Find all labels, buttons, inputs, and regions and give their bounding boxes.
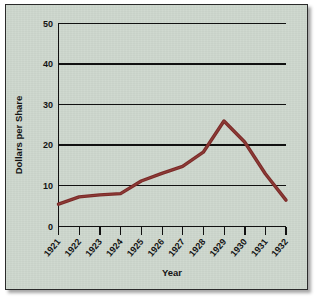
x-tickmarks — [59, 227, 287, 236]
x-tick-label: 1922 — [63, 237, 84, 259]
x-tick-label: 1928 — [187, 237, 208, 259]
line-chart: Dollars per Share 50 40 30 20 10 0 — [6, 5, 308, 290]
data-series-line — [59, 121, 287, 204]
y-tick-label: 30 — [43, 100, 53, 110]
chart-figure: Dollars per Share 50 40 30 20 10 0 — [0, 0, 318, 299]
y-tick-label: 0 — [48, 222, 53, 232]
x-tick-labels: 1921 1922 1923 1924 1925 1926 1927 1928 … — [42, 237, 290, 259]
y-axis-title: Dollars per Share — [13, 96, 24, 175]
x-axis-title: Year — [162, 267, 182, 278]
x-tick-label: 1932 — [269, 237, 290, 259]
x-tick-label: 1927 — [166, 237, 187, 259]
y-tick-label: 10 — [43, 181, 53, 191]
y-tick-label: 40 — [43, 59, 53, 69]
chart-plate: Dollars per Share 50 40 30 20 10 0 — [5, 4, 308, 290]
x-tick-label: 1923 — [83, 237, 104, 259]
x-tick-label: 1921 — [42, 237, 63, 259]
x-tick-label: 1926 — [146, 237, 167, 259]
x-tick-label: 1929 — [208, 237, 229, 259]
x-tick-label: 1930 — [228, 237, 249, 259]
data-series-line-highlight — [59, 121, 287, 204]
x-tick-label: 1924 — [104, 237, 125, 259]
x-tick-label: 1931 — [249, 237, 270, 259]
x-tick-label: 1925 — [125, 237, 146, 259]
y-tick-label: 20 — [43, 140, 53, 150]
y-tick-label: 50 — [43, 19, 53, 29]
y-tick-labels: 50 40 30 20 10 0 — [43, 19, 53, 232]
gridlines — [58, 24, 286, 186]
